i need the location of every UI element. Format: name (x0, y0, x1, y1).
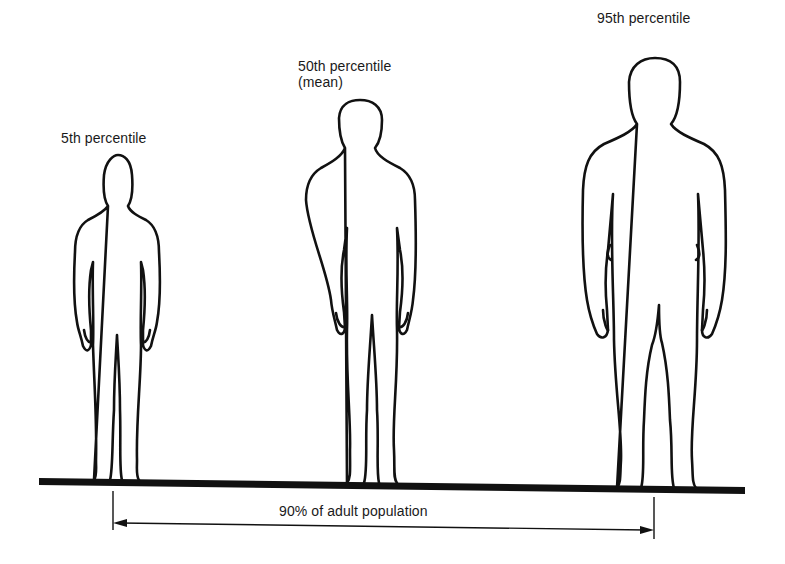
label-50th-percentile-line1: 50th percentile (298, 58, 391, 74)
anthropometric-percentile-diagram: 5th percentile 50th percentile (mean) 95… (0, 0, 785, 564)
range-arrow (113, 519, 654, 534)
label-5th-percentile: 5th percentile (61, 130, 146, 146)
label-5th-percentile-line1: 5th percentile (61, 130, 146, 146)
arrow-head-right-icon (640, 526, 654, 534)
ground-line (39, 478, 745, 494)
label-95th-percentile-line1: 95th percentile (597, 10, 690, 26)
figure-50th-percentile (306, 100, 416, 483)
label-95th-percentile: 95th percentile (597, 10, 690, 26)
range-label: 90% of adult population (279, 503, 428, 519)
range-label-text: 90% of adult population (279, 503, 428, 519)
diagram-graphics (0, 0, 785, 564)
label-50th-percentile-line2: (mean) (298, 74, 391, 90)
figure-95th-percentile (582, 58, 725, 488)
arrow-head-left-icon (113, 519, 127, 527)
figure-5th-percentile (74, 155, 160, 480)
label-50th-percentile: 50th percentile (mean) (298, 58, 391, 90)
